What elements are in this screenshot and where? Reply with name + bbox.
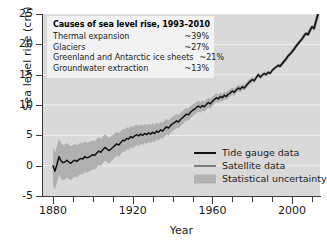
x-tick-mark <box>73 197 74 202</box>
y-axis-label: Sea level rise (cm) <box>21 0 34 134</box>
y-tick-label: 15 <box>0 69 33 80</box>
x-axis-line <box>42 196 321 197</box>
annotation-cause-label: Greenland and Antarctic ice sheets <box>53 53 200 64</box>
y-tick-label: 0 <box>0 160 33 171</box>
annotation-cause-label: Groundwater extraction <box>53 64 154 75</box>
x-tick-mark <box>212 197 213 204</box>
legend-label: Tide gauge data <box>222 147 299 158</box>
y-tick-label: 5 <box>0 129 33 140</box>
annotation-cause-label: Thermal expansion <box>53 32 135 43</box>
y-tick-label: 20 <box>0 38 33 49</box>
y-tick-mark <box>36 75 42 76</box>
x-tick-mark <box>312 197 313 202</box>
annotation-cause-value: ~13% <box>185 64 209 75</box>
legend-item: Satellite data <box>194 159 327 172</box>
satellite-data-line <box>278 14 318 66</box>
annotation-cause-value: ~27% <box>185 43 209 54</box>
x-tick-mark <box>193 197 194 202</box>
y-tick-mark <box>36 166 42 167</box>
annotation-cause-label: Glaciers <box>53 43 91 54</box>
x-tick-mark <box>133 197 134 204</box>
causes-annotation-box: Causes of sea level rise, 1993–2010 Ther… <box>47 16 214 78</box>
chart-legend: Tide gauge dataSatellite dataStatistical… <box>194 146 327 185</box>
annotation-cause-value: ~21% <box>200 53 224 64</box>
x-axis-label: Year <box>43 224 320 237</box>
x-tick-label: 1880 <box>30 205 76 216</box>
annotation-row: Thermal expansion~39% <box>53 32 209 43</box>
x-tick-mark <box>113 197 114 202</box>
x-tick-mark <box>252 197 253 202</box>
legend-item: Tide gauge data <box>194 146 327 159</box>
legend-swatch-line-gray-icon <box>194 160 216 171</box>
x-tick-label: 1960 <box>189 205 235 216</box>
annotation-row: Glaciers~27% <box>53 43 209 54</box>
x-tick-label: 1920 <box>110 205 156 216</box>
annotation-cause-value: ~39% <box>185 32 209 43</box>
y-tick-label: -5 <box>0 190 33 201</box>
y-tick-label: 10 <box>0 99 33 110</box>
x-tick-mark <box>232 197 233 202</box>
x-tick-mark <box>53 197 54 204</box>
y-axis-line <box>42 14 43 197</box>
y-tick-mark <box>36 105 42 106</box>
y-tick-mark <box>36 135 42 136</box>
x-tick-mark <box>272 197 273 202</box>
y-tick-mark <box>36 44 42 45</box>
annotation-row: Greenland and Antarctic ice sheets~21% <box>53 53 209 64</box>
x-tick-label: 2000 <box>269 205 315 216</box>
y-tick-mark <box>36 196 42 197</box>
legend-swatch-band-gray-icon <box>194 173 216 184</box>
annotation-title: Causes of sea level rise, 1993–2010 <box>53 20 209 29</box>
annotation-rows: Thermal expansion~39%Glaciers~27%Greenla… <box>53 32 209 74</box>
legend-label: Statistical uncertainty <box>222 173 327 184</box>
x-tick-mark <box>93 197 94 202</box>
y-tick-label: 25 <box>0 8 33 19</box>
legend-item: Statistical uncertainty <box>194 172 327 185</box>
x-tick-mark <box>292 197 293 204</box>
y-tick-mark <box>36 14 42 15</box>
legend-swatch-line-black-icon <box>194 147 216 158</box>
x-tick-mark <box>153 197 154 202</box>
x-tick-mark <box>173 197 174 202</box>
annotation-row: Groundwater extraction~13% <box>53 64 209 75</box>
legend-label: Satellite data <box>222 160 285 171</box>
